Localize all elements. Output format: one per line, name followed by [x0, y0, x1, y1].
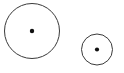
large-circle-group: [5, 4, 60, 59]
circles-diagram-svg: [0, 0, 124, 73]
small-circle-group: [82, 34, 113, 65]
small-circle-center-dot: [95, 47, 99, 51]
large-circle-center-dot: [30, 29, 34, 33]
diagram-canvas: [0, 0, 124, 73]
